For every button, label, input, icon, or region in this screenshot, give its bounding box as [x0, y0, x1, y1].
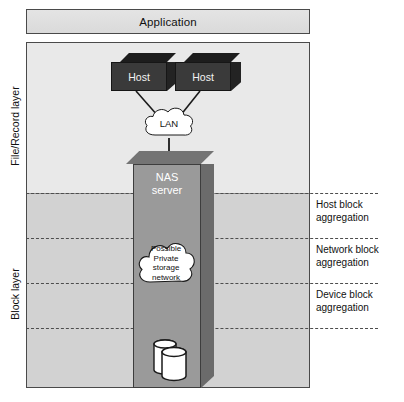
disk-cylinders-shape [148, 337, 192, 383]
network-block-aggregation-line1: Network block [316, 244, 402, 257]
host-label-2: Host [175, 62, 231, 91]
lan-cloud-text: LAN [142, 105, 196, 141]
storage-device-icon [148, 337, 192, 383]
lan-label: LAN [160, 118, 178, 129]
host-node-2: Host [175, 53, 231, 91]
host-cube-top [120, 53, 176, 62]
storage-cloud-line2: Private [154, 254, 179, 264]
private-storage-network-cloud: Possible Private storage network [135, 236, 197, 290]
application-label: Application [139, 16, 196, 28]
host-block-aggregation-line1: Host block [316, 199, 402, 212]
application-bar: Application [26, 9, 310, 34]
host-block-aggregation-label: Host block aggregation [316, 199, 402, 224]
storage-cloud-line3: storage [153, 263, 180, 273]
storage-cloud-line1: Possible [151, 244, 181, 254]
nas-label-line2: server [133, 184, 201, 197]
device-block-aggregation-line2: aggregation [316, 302, 402, 315]
diagram-canvas: Application File/Record layer Block laye… [0, 0, 404, 402]
block-layer-label: Block layer [9, 234, 21, 354]
lan-cloud: LAN [142, 105, 196, 141]
storage-cloud-text: Possible Private storage network [135, 236, 197, 290]
host-cube-top [184, 53, 240, 62]
network-block-aggregation-line2: aggregation [316, 257, 402, 270]
host-node-1: Host [111, 53, 167, 91]
nas-label-line1: NAS [133, 171, 201, 184]
nas-block-side [201, 164, 214, 388]
nas-block-top [126, 151, 214, 164]
file-record-layer-label: File/Record layer [9, 66, 21, 186]
host-block-aggregation-line2: aggregation [316, 212, 402, 225]
device-block-aggregation-line1: Device block [316, 289, 402, 302]
device-block-aggregation-label: Device block aggregation [316, 289, 402, 314]
network-block-aggregation-label: Network block aggregation [316, 244, 402, 269]
storage-cloud-line4: network [152, 273, 180, 283]
nas-server-label: NAS server [133, 171, 201, 197]
host-label-1: Host [111, 62, 167, 91]
